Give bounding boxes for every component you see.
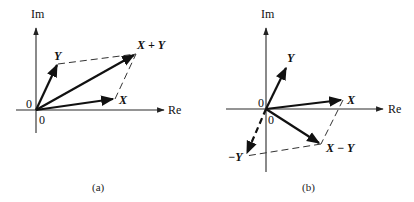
caption-b: (b) [302, 181, 315, 194]
parallelogram-bottom-b [246, 144, 321, 156]
origin-label-left-b: 0 [258, 96, 264, 110]
label-x-a: X [118, 93, 128, 107]
origin-label-below-b: 0 [268, 113, 274, 127]
origin-label-left-a: 0 [26, 97, 32, 111]
label-y-a: Y [54, 49, 63, 63]
label-y-b: Y [287, 51, 296, 65]
panel-b: Im Re 0 0 Y X X − Y −Y (b) [226, 7, 401, 194]
label-neg-y-b: −Y [228, 150, 244, 164]
parallelogram-right-b [321, 100, 343, 144]
panel-a: Im Re 0 0 Y X X + Y (a) [16, 7, 181, 194]
label-x-b: X [346, 93, 356, 107]
caption-a: (a) [92, 181, 105, 194]
vector-neg-y-b [247, 109, 266, 153]
vector-x-b [266, 100, 341, 109]
origin-label-below-a: 0 [39, 113, 45, 127]
vector-diagram: Im Re 0 0 Y X X + Y (a) Im Re 0 0 Y X X … [0, 0, 414, 202]
label-sum-a: X + Y [136, 38, 167, 52]
re-label-a: Re [168, 103, 181, 117]
im-label-b: Im [261, 7, 275, 21]
im-label-a: Im [31, 7, 45, 21]
re-label-b: Re [388, 102, 401, 116]
parallelogram-top-a [58, 54, 136, 64]
vector-y-b [266, 68, 286, 109]
label-diff-b: X − Y [325, 141, 356, 155]
